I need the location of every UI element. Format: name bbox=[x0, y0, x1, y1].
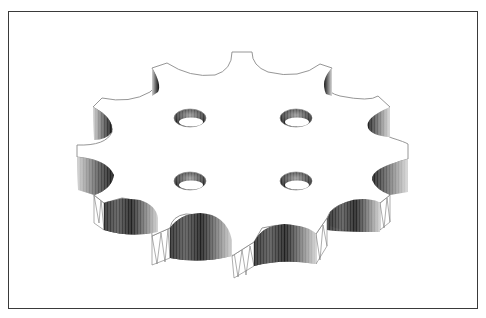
bolt-hole bbox=[280, 172, 312, 190]
gear-illustration bbox=[0, 0, 486, 318]
bolt-hole bbox=[174, 172, 206, 190]
bolt-hole bbox=[174, 109, 206, 127]
bolt-hole bbox=[280, 109, 312, 127]
